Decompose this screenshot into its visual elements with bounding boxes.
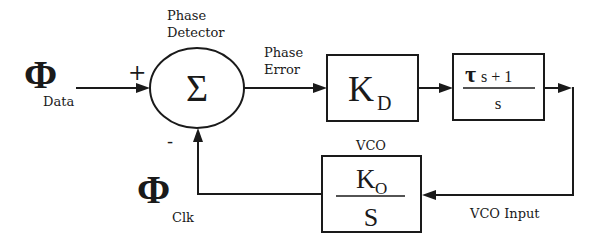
kd-to-filter-arrowhead-icon	[439, 83, 453, 93]
phase-detector-label-line1: Phase	[167, 8, 207, 23]
minus-sign: -	[167, 131, 173, 152]
input-phi-data: Φ Data	[24, 52, 74, 109]
phase-error-label-line1: Phase	[264, 45, 304, 60]
sigma-icon: Σ	[186, 67, 208, 109]
tau-symbol: τ	[465, 61, 476, 87]
pll-block-diagram: Φ Data + Phase Detector Σ Phase Error K …	[0, 0, 603, 241]
vco-denominator: S	[364, 203, 378, 232]
vco-input-label: VCO Input	[469, 206, 540, 221]
phi-clk-subscript: Clk	[172, 210, 194, 225]
summing-junction: Σ	[150, 48, 244, 128]
ko-subscript: O	[375, 179, 387, 198]
detector-gain-block: K D	[327, 55, 418, 121]
plus-sign: +	[128, 60, 146, 85]
phase-error-label-line2: Error	[264, 62, 301, 77]
feedback-arrowhead-icon	[193, 128, 203, 142]
vco-label: VCO	[355, 138, 386, 153]
phi-data-symbol: Φ	[24, 52, 57, 97]
filter-denominator: s	[495, 94, 502, 113]
phase-error-arrowhead-icon	[313, 83, 327, 93]
phase-detector-label-line2: Detector	[167, 25, 225, 40]
kd-symbol: K	[348, 69, 374, 109]
feedback-phi-clk: Φ Clk	[137, 167, 194, 225]
loop-filter-block: τ s + 1 s	[453, 54, 544, 120]
feedback-line	[198, 138, 322, 194]
vco-input-arrowhead-icon	[422, 190, 436, 200]
filter-numerator: s + 1	[481, 68, 512, 85]
filter-output-arrowhead-icon	[558, 83, 572, 93]
vco-block: K O S	[322, 156, 421, 232]
ko-symbol: K	[356, 164, 376, 194]
kd-subscript: D	[377, 92, 391, 114]
phi-clk-symbol: Φ	[137, 167, 170, 212]
phi-data-subscript: Data	[43, 94, 74, 109]
